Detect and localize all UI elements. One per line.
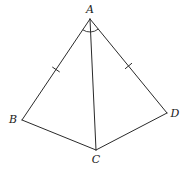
- vertex-label-b: B: [8, 113, 17, 126]
- geometry-diagram: A B C D: [0, 0, 190, 169]
- tick-mark-ab: [52, 67, 59, 72]
- segment-ac: [90, 19, 96, 150]
- vertex-label-d: D: [170, 107, 180, 120]
- vertex-label-a: A: [85, 3, 94, 16]
- tick-mark-ad: [125, 63, 132, 69]
- segment-bc: [22, 120, 96, 150]
- vertex-label-c: C: [92, 153, 101, 166]
- segment-cd: [96, 113, 167, 150]
